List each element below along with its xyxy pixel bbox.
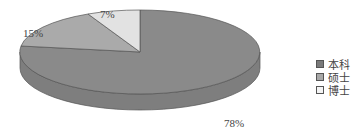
swatch-icon <box>316 86 324 94</box>
label-78: 78% <box>224 117 244 129</box>
label-7: 7% <box>100 8 115 20</box>
legend-item-boshi: 博士 <box>316 83 350 96</box>
swatch-icon <box>316 60 324 68</box>
pie-chart <box>0 0 361 135</box>
swatch-icon <box>316 73 324 81</box>
legend: 本科 硕士 博士 <box>316 57 350 96</box>
legend-label: 博士 <box>328 82 350 98</box>
label-15: 15% <box>23 27 43 39</box>
